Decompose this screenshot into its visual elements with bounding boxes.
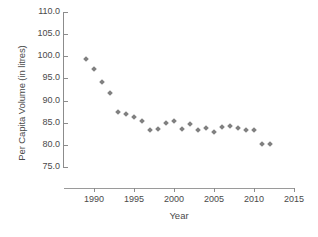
data-point xyxy=(219,124,225,130)
data-point xyxy=(187,122,193,128)
data-point xyxy=(107,90,113,96)
data-point xyxy=(227,123,233,129)
data-point xyxy=(259,142,265,148)
data-point xyxy=(235,126,241,132)
data-point xyxy=(147,127,153,133)
data-point-layer xyxy=(0,0,318,237)
data-point xyxy=(115,109,121,115)
data-point xyxy=(155,127,161,133)
data-point xyxy=(123,111,129,117)
data-point xyxy=(251,127,257,133)
data-point xyxy=(203,125,209,131)
data-point xyxy=(267,141,273,147)
data-point xyxy=(163,120,169,126)
data-point xyxy=(91,66,97,72)
data-point xyxy=(243,127,249,133)
data-point xyxy=(139,118,145,124)
data-point xyxy=(179,127,185,133)
data-point xyxy=(131,114,137,120)
scatter-chart-figure: Per Capita Volume (in litres) 75.080.085… xyxy=(0,0,318,237)
data-point xyxy=(171,119,177,125)
x-axis-title: Year xyxy=(64,210,294,221)
data-point xyxy=(99,79,105,85)
data-point xyxy=(83,56,89,62)
data-point xyxy=(195,127,201,133)
data-point xyxy=(211,129,217,135)
